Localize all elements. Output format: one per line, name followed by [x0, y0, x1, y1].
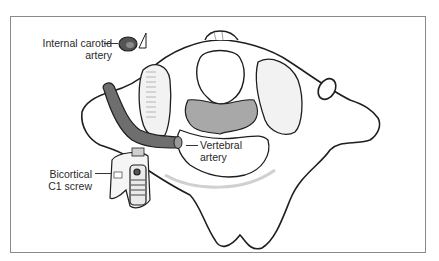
internal-carotid-leader	[104, 43, 118, 44]
vertebral-artery-leader	[186, 145, 198, 146]
internal-carotid-label: Internal carotid artery	[16, 37, 112, 61]
screw-label: Bicortical C1 screw	[40, 168, 92, 192]
label-line: Vertebral	[200, 139, 242, 151]
label-line: artery	[200, 151, 242, 163]
screw-leader	[95, 173, 112, 174]
label-line: artery	[16, 49, 112, 61]
anterior-tubercle	[205, 31, 238, 40]
left-lateral-mass	[139, 65, 171, 137]
label-line: C1 screw	[40, 180, 92, 192]
vertebral-artery-label: Vertebral artery	[200, 139, 242, 163]
c1-screw	[110, 148, 150, 208]
label-line: Internal carotid	[16, 37, 112, 49]
label-line: Bicortical	[40, 168, 92, 180]
